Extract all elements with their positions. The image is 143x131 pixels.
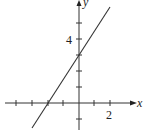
- line-graph: 4 2 x y: [0, 0, 143, 131]
- y-axis-arrow-icon: [77, 0, 82, 6]
- plotted-line: [32, 7, 110, 128]
- x-tick-label-2: 2: [106, 108, 112, 122]
- x-axis-arrow-icon: [130, 101, 137, 106]
- y-tick-label-4: 4: [66, 33, 72, 47]
- x-axis-label: x: [136, 96, 143, 110]
- y-axis-label: y: [82, 0, 89, 9]
